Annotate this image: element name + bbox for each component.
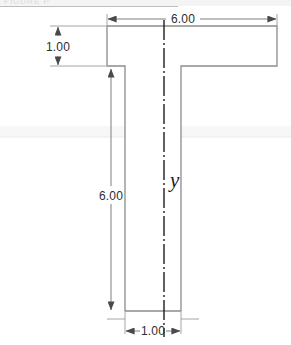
t-section-drawing: 6.00 1.00 6.00 bbox=[0, 0, 291, 345]
dimension-web-height: 6.00 bbox=[99, 69, 123, 310]
t-section-outline bbox=[107, 26, 277, 311]
figure-canvas: FIGURE P 6.00 bbox=[0, 0, 291, 345]
dimension-web-width: 1.00 bbox=[107, 312, 199, 338]
dim-text-web-width: 1.00 bbox=[141, 324, 165, 338]
y-axis-label: y bbox=[168, 168, 180, 192]
dim-text-web-height: 6.00 bbox=[99, 189, 123, 203]
dimension-flange-width: 6.00 bbox=[107, 12, 277, 26]
dimension-flange-thickness: 1.00 bbox=[46, 26, 106, 66]
dim-text-flange-width: 6.00 bbox=[171, 12, 195, 26]
t-section-profile-path bbox=[107, 26, 277, 311]
dim-text-flange-thickness: 1.00 bbox=[46, 40, 70, 54]
